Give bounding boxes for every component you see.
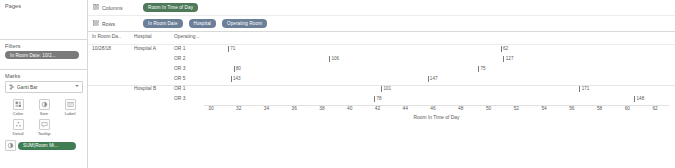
row-plot: 101171 [204, 85, 675, 95]
gantt-bar [329, 56, 330, 62]
gantt-mark-label: 127 [506, 56, 514, 62]
worksheet-area: Columns Room In Time of Day Rows In Room… [88, 0, 675, 168]
chevron-down-icon[interactable] [75, 85, 79, 87]
gantt-mark-label: 75 [480, 66, 485, 72]
row-plot: 106127 [204, 55, 675, 65]
marks-button-label-label: Label [65, 111, 76, 116]
columns-shelf-pills: Room In Time of Day [143, 3, 198, 12]
header-in-room-date[interactable]: In Room Da.. [88, 34, 130, 39]
rows-shelf-pills: In Room Date Hospital Operating Room [143, 19, 267, 28]
marks-title: Marks [5, 73, 83, 79]
size-icon-small [5, 140, 16, 151]
gantt-mark-label: 148 [637, 96, 645, 102]
pill-in-room-date[interactable]: In Room Date [143, 19, 183, 28]
gantt-mark[interactable]: 80 [234, 66, 241, 72]
marks-button-color[interactable]: Color [5, 97, 31, 117]
columns-icon [93, 4, 99, 12]
axis-title: Room In Time of Day [204, 115, 669, 120]
pill-hospital[interactable]: Hospital [189, 19, 216, 28]
detail-icon [13, 119, 24, 130]
axis-tick-label: 62 [652, 106, 657, 111]
cell-operating-room: OR 1 [170, 45, 204, 51]
marks-button-tooltip[interactable]: Tooltip [31, 117, 57, 137]
table-row[interactable]: 10/28/18Hospital AOR 17162 [88, 45, 675, 55]
axis-tick-label: 50 [486, 106, 491, 111]
gantt-mark-label: 143 [233, 76, 241, 82]
table-row[interactable]: OR 38075 [88, 65, 675, 75]
axis-tick-label: 34 [264, 106, 269, 111]
columns-shelf[interactable]: Columns Room In Time of Day [88, 0, 675, 16]
gantt-mark-label: 78 [376, 96, 381, 102]
gantt-mark[interactable]: 78 [374, 96, 381, 102]
marks-button-tooltip-label: Tooltip [38, 131, 51, 136]
marks-button-label[interactable]: Label [57, 97, 83, 117]
marks-buttons-group: Color Size Label [5, 97, 83, 137]
table-row[interactable]: Hospital BOR 1101171 [88, 85, 675, 95]
gantt-mark-label: 101 [383, 86, 391, 92]
axis-tick-label: 30 [208, 106, 213, 111]
axis-tick-label: 60 [625, 106, 630, 111]
cell-in-room-date [88, 95, 130, 96]
mark-type-label: Gantt Bar [17, 85, 38, 90]
axis-tick-label: 44 [403, 106, 408, 111]
axis-tick-label: 58 [597, 106, 602, 111]
gantt-mark[interactable]: 106 [329, 56, 339, 62]
rows-shelf-label-group: Rows [93, 20, 143, 28]
header-hospital[interactable]: Hospital [130, 34, 170, 39]
gantt-bar-icon [9, 84, 15, 90]
axis-tick-label: 52 [514, 106, 519, 111]
axis-tick-label: 32 [236, 106, 241, 111]
shelves-container: Columns Room In Time of Day Rows In Room… [88, 0, 675, 32]
header-operating-room[interactable]: Operating .. [170, 34, 204, 39]
pill-room-in-time-of-day[interactable]: Room In Time of Day [143, 3, 198, 12]
row-plot: 78148 [204, 95, 675, 105]
gantt-bar [381, 86, 382, 92]
gantt-mark[interactable]: 101 [381, 86, 391, 92]
mark-type-dropdown[interactable]: Gantt Bar [5, 81, 83, 93]
axis-tick-label: 38 [319, 106, 324, 111]
size-icon [39, 99, 50, 110]
gantt-mark[interactable]: 171 [579, 86, 589, 92]
cell-in-room-date [88, 65, 130, 66]
gantt-mark[interactable]: 127 [503, 56, 513, 62]
gantt-bar [234, 66, 235, 72]
marks-button-size[interactable]: Size [31, 97, 57, 117]
tooltip-icon [39, 119, 50, 130]
cell-operating-room: OR 2 [170, 55, 204, 61]
gantt-bar [503, 56, 504, 62]
gantt-mark[interactable]: 71 [228, 46, 235, 52]
gantt-mark[interactable]: 148 [634, 96, 644, 102]
rows-shelf[interactable]: Rows In Room Date Hospital Operating Roo… [88, 16, 675, 31]
pill-operating-room[interactable]: Operating Room [222, 19, 267, 28]
gantt-mark-label: 80 [236, 66, 241, 72]
table-row[interactable]: OR 2106127 [88, 55, 675, 65]
gantt-mark[interactable]: 75 [478, 66, 485, 72]
pages-title: Pages [5, 3, 83, 9]
row-plot: 143147 [204, 75, 675, 85]
axis-tick-label: 54 [541, 106, 546, 111]
gantt-bar [501, 46, 502, 52]
table-row[interactable]: OR 378148 [88, 95, 675, 105]
marks-button-detail[interactable]: Detail [5, 117, 31, 137]
table-row[interactable]: OR 5143147 [88, 75, 675, 85]
filter-pill-in-room-date[interactable]: In Room Date: 10/2... [5, 51, 79, 59]
gantt-mark-label: 171 [582, 86, 590, 92]
gantt-bar [478, 66, 479, 72]
gantt-mark[interactable]: 147 [428, 76, 438, 82]
marks-card: Marks Gantt Bar Color [0, 70, 87, 168]
gantt-mark-label: 106 [331, 56, 339, 62]
axis-tick-label: 56 [569, 106, 574, 111]
gantt-mark[interactable]: 143 [231, 76, 241, 82]
gantt-bar [428, 76, 429, 82]
gantt-mark[interactable]: 62 [501, 46, 508, 52]
marks-pill-sum-room-minutes[interactable]: SUM(Room Mi... [18, 142, 76, 150]
gantt-bar [228, 46, 229, 52]
rows-shelf-name: Rows [102, 21, 115, 27]
marks-card-pill-row: SUM(Room Mi... [5, 140, 83, 151]
axis-tick-label: 48 [458, 106, 463, 111]
columns-shelf-label-group: Columns [93, 4, 143, 12]
gantt-bar [374, 96, 375, 102]
marks-button-size-label: Size [40, 111, 49, 116]
axis-ticks: 3032343638404244464850525456586062 [204, 105, 669, 114]
tableau-worksheet: Pages Filters In Room Date: 10/2... Mark… [0, 0, 675, 168]
